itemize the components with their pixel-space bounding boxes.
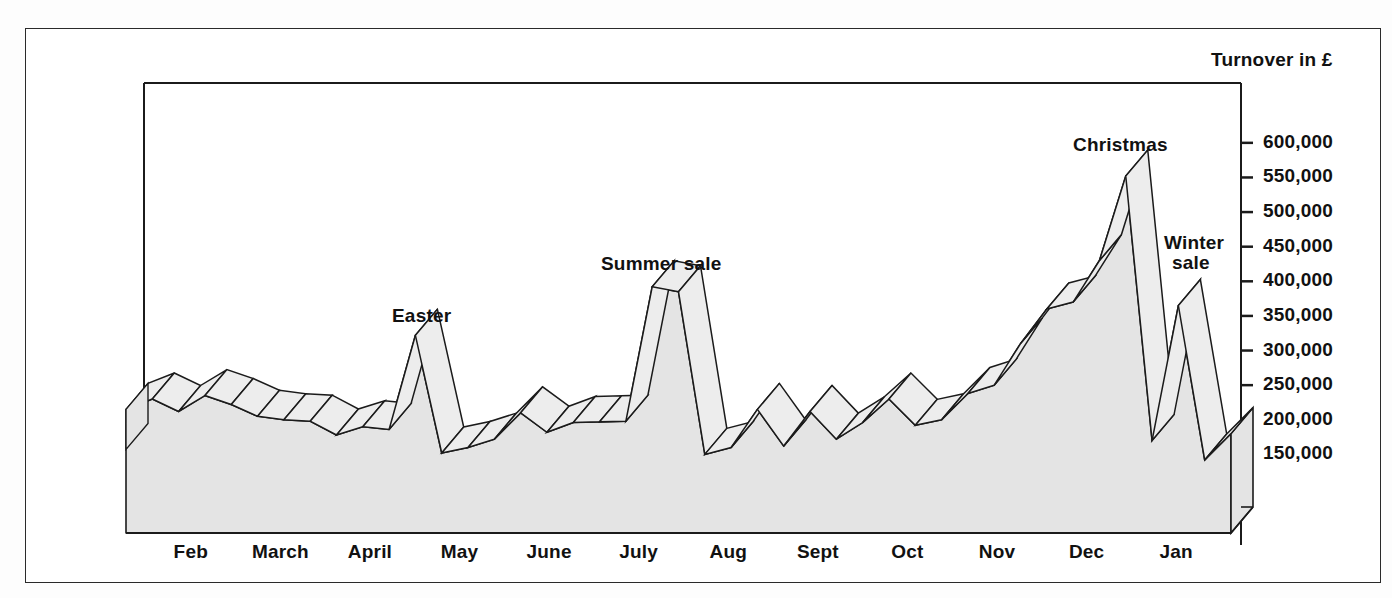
x-tick-label-dec: Dec [1069,541,1104,563]
annotation-summer-sale: Summer sale [601,254,722,274]
x-tick-label-june: June [527,541,572,563]
annotation-winter-sale: Winter sale [1164,233,1224,273]
y-tick-label: 150,000 [1263,442,1333,464]
y-tick-label: 450,000 [1263,235,1333,257]
y-tick-label: 250,000 [1263,373,1333,395]
x-tick-label-march: March [252,541,309,563]
chart-frame: Turnover in £ 600,000550,000500,000450,0… [25,28,1381,583]
y-axis-title: Turnover in £ [1211,49,1333,71]
y-tick-label: 550,000 [1263,165,1333,187]
y-tick-label: 500,000 [1263,200,1333,222]
turnover-area-chart [26,29,1382,584]
y-tick-label: 350,000 [1263,304,1333,326]
x-tick-label-sept: Sept [797,541,839,563]
x-tick-label-april: April [348,541,392,563]
x-tick-label-feb: Feb [174,541,208,563]
annotation-winter-sale-line1: Winter [1164,233,1224,253]
y-tick-label: 200,000 [1263,408,1333,430]
y-tick-label: 400,000 [1263,269,1333,291]
x-tick-label-aug: Aug [710,541,748,563]
y-tick-label: 300,000 [1263,339,1333,361]
annotation-winter-sale-line2: sale [1164,253,1224,273]
x-tick-label-nov: Nov [979,541,1016,563]
y-tick-label: 600,000 [1263,131,1333,153]
chart-page: Turnover in £ 600,000550,000500,000450,0… [0,0,1392,598]
x-tick-label-may: May [441,541,479,563]
x-tick-label-oct: Oct [891,541,923,563]
annotation-christmas: Christmas [1073,135,1168,155]
x-tick-label-july: July [619,541,658,563]
annotation-easter: Easter [392,306,451,326]
x-tick-label-jan: Jan [1160,541,1193,563]
